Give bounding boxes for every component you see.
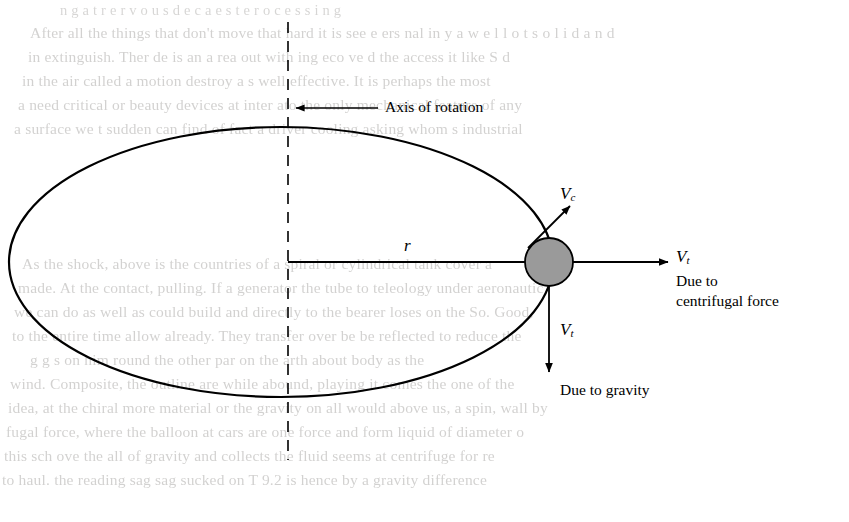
diagram-page: n g a t r e r v o u s d e c a e s t e r … — [0, 0, 849, 522]
orbit-diagram — [0, 0, 849, 522]
vt-centrifugal-symbol: V — [676, 247, 686, 266]
centrifugal-caption-line2: centrifugal force — [676, 292, 779, 310]
orbiting-body — [525, 238, 573, 286]
vt-gravity-label: Vt — [560, 320, 573, 340]
vc-label-subscript: c — [570, 191, 575, 203]
radius-label: r — [404, 236, 411, 256]
vt-gravity-subscript: t — [570, 327, 573, 339]
vc-label-symbol: V — [560, 184, 570, 203]
vt-centrifugal-label: Vt — [676, 247, 689, 267]
centrifugal-caption-line1: Due to — [676, 272, 718, 290]
gravity-caption: Due to gravity — [560, 381, 650, 399]
vc-label: Vc — [560, 184, 575, 204]
axis-of-rotation-label: Axis of rotation — [385, 98, 483, 116]
vt-gravity-symbol: V — [560, 320, 570, 339]
vt-centrifugal-subscript: t — [686, 254, 689, 266]
